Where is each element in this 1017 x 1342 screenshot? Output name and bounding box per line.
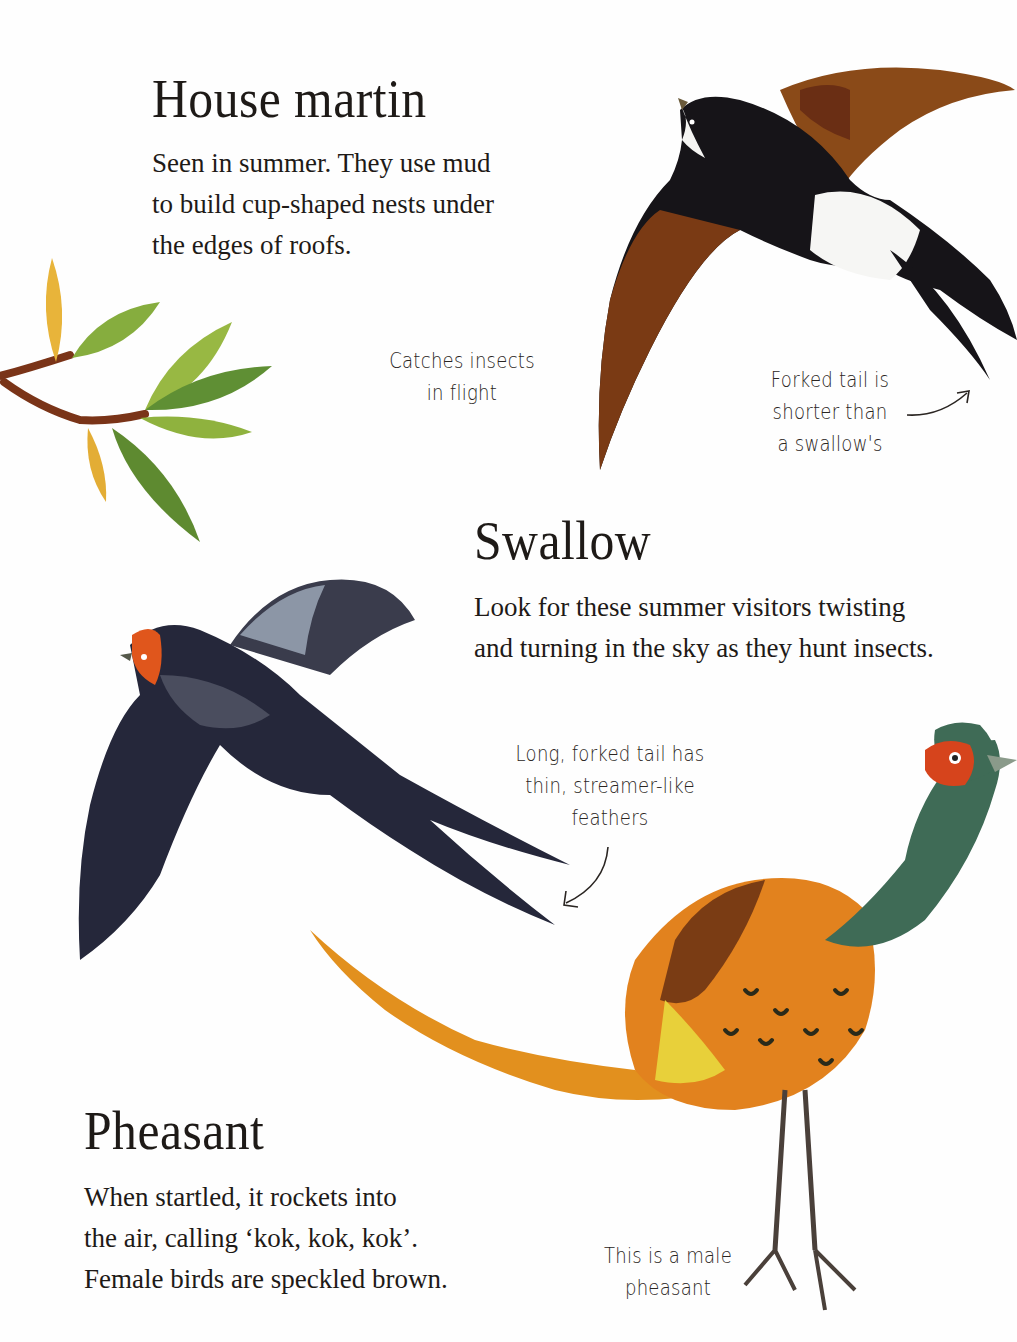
house-martin-line-1: Seen in summer. They use mud: [152, 143, 494, 184]
arrow-icon: [905, 385, 975, 425]
house-martin-title: House martin: [152, 72, 427, 126]
pheasant-line-1: When startled, it rockets into: [84, 1177, 448, 1218]
note-catches-insects: Catches insects in flight: [385, 345, 540, 409]
pheasant-description: When startled, it rockets into the air, …: [84, 1177, 448, 1300]
note-line: Forked tail is: [753, 364, 908, 396]
swallow-title: Swallow: [474, 514, 651, 568]
pheasant-title: Pheasant: [84, 1104, 264, 1158]
note-line: shorter than: [753, 396, 908, 428]
note-martin-tail: Forked tail is shorter than a swallow's: [753, 364, 908, 460]
pheasant-line-3: Female birds are speckled brown.: [84, 1259, 448, 1300]
house-martin-line-2: to build cup-shaped nests under: [152, 184, 494, 225]
note-line: This is a male: [591, 1240, 746, 1272]
note-line: pheasant: [591, 1272, 746, 1304]
note-line: Catches insects: [385, 345, 540, 377]
note-line: in flight: [385, 377, 540, 409]
leafy-twig-illustration: [0, 250, 290, 540]
note-line: a swallow's: [753, 428, 908, 460]
pheasant-line-2: the air, calling ‘kok, kok, kok’.: [84, 1218, 448, 1259]
house-martin-description: Seen in summer. They use mud to build cu…: [152, 143, 494, 266]
note-male-pheasant: This is a male pheasant: [591, 1240, 746, 1304]
